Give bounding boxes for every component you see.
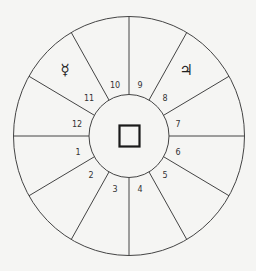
house-number-12: 12	[72, 120, 82, 129]
house-cusp-line	[149, 172, 187, 240]
inner-circle	[89, 95, 169, 178]
house-number-8: 8	[162, 94, 167, 103]
house-cusp-line	[71, 172, 109, 240]
house-number-3: 3	[112, 185, 117, 194]
house-cusp-line	[71, 33, 109, 101]
house-number-5: 5	[162, 171, 167, 180]
planet-glyphs: ☿♃	[60, 61, 192, 79]
house-number-7: 7	[175, 120, 180, 129]
house-chart: 123456789101112 ☿♃	[0, 0, 256, 271]
house-cusp-line	[164, 157, 229, 196]
house-number-6: 6	[175, 148, 180, 157]
jupiter-icon: ♃	[179, 61, 192, 79]
mercury-icon: ☿	[60, 61, 69, 79]
house-cusp-line	[164, 76, 229, 115]
house-number-9: 9	[137, 81, 142, 90]
house-number-11: 11	[84, 94, 94, 103]
house-number-2: 2	[88, 171, 93, 180]
house-number-1: 1	[75, 148, 80, 157]
house-number-4: 4	[137, 185, 142, 194]
house-cusp-line	[29, 157, 94, 196]
house-number-10: 10	[110, 81, 120, 90]
